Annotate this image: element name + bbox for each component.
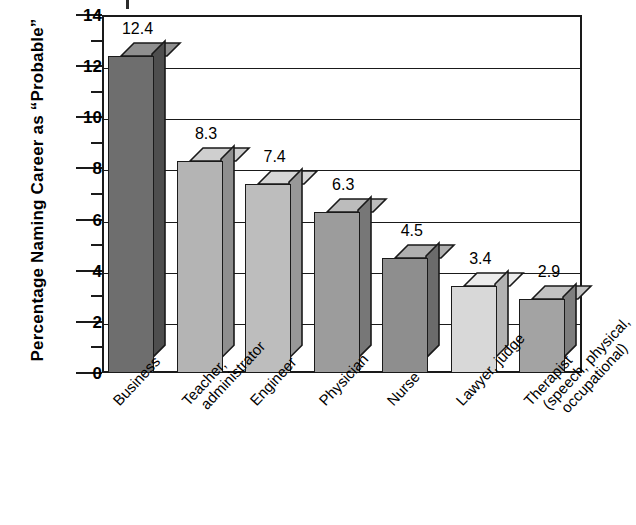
x-axis-category-label: Nurse [384,369,423,409]
x-axis-category-label: Therapist(speech, physical,occupational) [521,303,636,430]
x-axis-category-label: Lawyer, judge [453,330,528,408]
x-axis-category-label: Business [110,353,163,408]
x-axis-category-label: Physician [316,351,371,409]
